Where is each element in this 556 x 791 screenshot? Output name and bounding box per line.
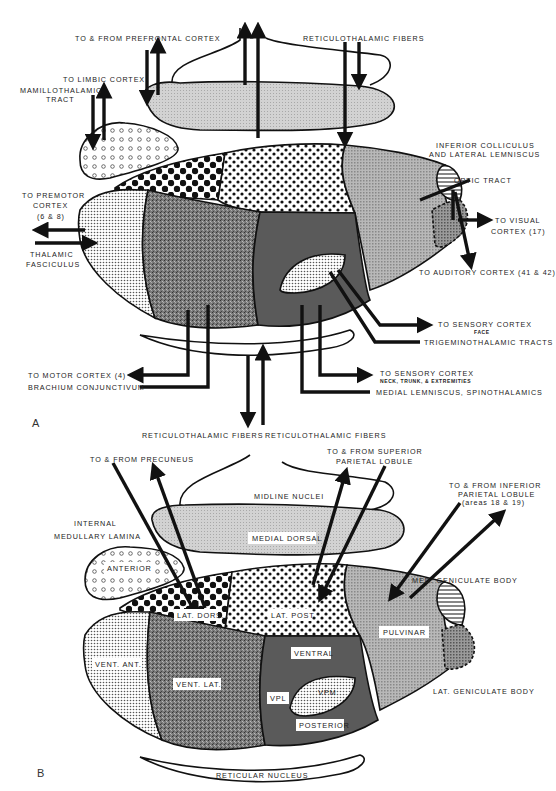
label-midline-nuclei: MIDLINE NUCLEI: [254, 492, 324, 501]
label-inferior-colliculus-1: INFERIOR COLLICULUS: [436, 141, 535, 150]
label-sensory-face-2: FACE: [474, 329, 490, 335]
label-vpm: VPM: [318, 688, 336, 697]
label-med-geniculate: MED. GENICULATE BODY: [412, 576, 518, 585]
reticular-nucleus-a: [140, 330, 354, 355]
label-inferior-parietal-1: TO & FROM INFERIOR: [449, 481, 541, 490]
label-premotor-2: CORTEX: [33, 201, 68, 210]
panel-a: TO & FROM PREFRONTAL CORTEX RETICULOTHAL…: [20, 28, 556, 429]
label-lat-geniculate: LAT. GENICULATE BODY: [433, 687, 535, 696]
label-sensory-neck-1: TO SENSORY CORTEX: [380, 369, 474, 378]
label-mamillothalamic-2: TRACT: [46, 95, 74, 104]
lateral-posterior-shape-b: [225, 564, 360, 636]
label-visual-1: TO VISUAL: [495, 216, 541, 225]
label-vpl: VPL: [270, 694, 286, 703]
vent-lat-shape: [143, 190, 260, 328]
label-anterior: ANTERIOR: [107, 564, 152, 573]
label-trigeminothalamic: TRIGEMINOTHALAMIC TRACTS: [424, 338, 553, 347]
label-limbic: TO LIMBIC CORTEX: [63, 75, 145, 84]
label-posterior: POSTERIOR: [299, 721, 350, 730]
label-pulvinar: PULVINAR: [383, 628, 426, 637]
label-lat-dors: LAT. DORS.: [177, 611, 225, 620]
label-premotor-1: TO PREMOTOR: [22, 191, 85, 200]
label-vent-ant: VENT. ANT.: [95, 660, 142, 669]
label-lat-post: LAT. POST.: [271, 611, 317, 620]
label-optic-tract: OPTIC TRACT: [454, 176, 512, 185]
label-prefrontal: TO & FROM PREFRONTAL CORTEX: [75, 34, 220, 43]
label-medial-dorsal: MEDIAL DORSAL: [252, 534, 322, 543]
panel-label-a: A: [32, 417, 40, 429]
label-internal-lamina-2: MEDULLARY LAMINA: [54, 532, 141, 541]
label-auditory: TO AUDITORY CORTEX (41 & 42): [419, 268, 556, 277]
label-ventral: VENTRAL: [294, 649, 334, 658]
label-medial-lemniscus: MEDIAL LEMNISCUS, SPINOTHALAMICS: [376, 388, 543, 397]
label-reticulothalamic-b-right: RETICULOTHALAMIC FIBERS: [265, 431, 386, 440]
label-brachium: BRACHIUM CONJUNCTIVUM: [28, 383, 145, 392]
label-reticular-nucleus: RETICULAR NUCLEUS: [216, 771, 308, 780]
label-thalamic-fasciculus-2: FASCICULUS: [26, 260, 80, 269]
label-vent-lat: VENT. LAT.: [176, 680, 221, 689]
medial-dorsal-shape-b: [152, 504, 404, 555]
label-inferior-parietal-3: (areas 18 & 19): [462, 498, 525, 507]
label-visual-2: CORTEX (17): [491, 227, 546, 236]
label-internal-lamina-1: INTERNAL: [74, 519, 117, 528]
label-reticulothalamic-b-left: RETICULOTHALAMIC FIBERS: [142, 431, 263, 440]
label-superior-parietal-1: TO & FROM SUPERIOR: [327, 447, 423, 456]
thalamus-diagram: TO & FROM PREFRONTAL CORTEX RETICULOTHAL…: [0, 0, 556, 791]
label-precuneus: TO & FROM PRECUNEUS: [90, 455, 194, 464]
medial-dorsal-shape: [144, 82, 394, 131]
panel-label-b: B: [37, 767, 44, 779]
label-sensory-face-1: TO SENSORY CORTEX: [438, 320, 532, 329]
label-reticulothalamic-a: RETICULOTHALAMIC FIBERS: [303, 34, 424, 43]
label-motor: TO MOTOR CORTEX (4): [28, 371, 126, 380]
label-premotor-3: (6 & 8): [37, 212, 65, 221]
label-superior-parietal-2: PARIETAL LOBULE: [336, 457, 413, 466]
lat-geniculate-shape-b: [442, 625, 474, 669]
panel-b: RETICULOTHALAMIC FIBERS RETICULOTHALAMIC…: [37, 431, 541, 782]
lateral-posterior-shape: [218, 144, 355, 213]
label-sensory-neck-2: NECK, TRUNK, & EXTREMITIES: [380, 378, 471, 384]
label-inferior-colliculus-2: AND LATERAL LEMNISCUS: [429, 150, 540, 159]
label-thalamic-fasciculus-1: THALAMIC: [30, 250, 74, 259]
label-mamillothalamic-1: MAMILLOTHALAMIC: [20, 86, 102, 95]
